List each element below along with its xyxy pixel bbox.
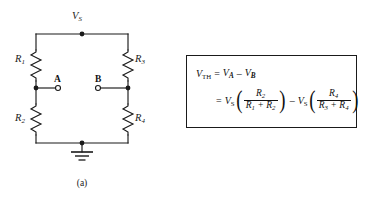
caption-panel-a: (a): [52, 178, 112, 188]
terminal-a-label: A: [54, 74, 61, 84]
fraction-r2-over-r1-plus-r2: R2 R1+R2: [244, 89, 278, 112]
node-dot-a: [34, 86, 39, 91]
node-dot-source: [80, 32, 85, 37]
resistor-r2-label: R2: [15, 113, 25, 125]
node-dot-b: [126, 86, 131, 91]
node-dot-ground: [80, 141, 85, 146]
terminal-a-open-circle: [56, 86, 61, 91]
equals-sign-1: =: [214, 68, 220, 79]
vb-symbol: VB: [245, 67, 256, 80]
equals-sign-2: =: [216, 95, 222, 106]
vth-symbol: VTH: [196, 68, 211, 80]
terminal-b-label: B: [95, 74, 101, 84]
left-paren-1: (: [236, 90, 242, 111]
resistor-r4-label: R4: [135, 113, 145, 125]
fraction-numerator-2: R4: [326, 89, 341, 100]
left-paren-2: (: [309, 90, 315, 111]
panel-circuit-schematic: VS R1 R2 R3 R4 A B (a): [0, 0, 180, 204]
vs-symbol-first: VS: [225, 95, 235, 107]
equation-line-1: VTH = VA – VB: [196, 67, 256, 80]
minus-sign-2: –: [290, 95, 295, 106]
fraction-r4-over-r3-plus-r4: R4 R3+R4: [317, 89, 351, 112]
fraction-denominator-2: R3+R4: [317, 100, 351, 112]
panel-equation: VTH = VA – VB = VS ( R2 R1+R2 ) – VS ( R: [180, 0, 371, 204]
right-paren-2: ): [352, 90, 358, 111]
equation-line-2: = VS ( R2 R1+R2 ) – VS ( R4 R3+R4 ): [213, 89, 360, 112]
resistor-r2-body: [31, 104, 41, 135]
figure-root: VS R1 R2 R3 R4 A B (a) VTH = VA – VB = V…: [0, 0, 371, 204]
circuit-diagram: [0, 0, 180, 175]
source-voltage-label: VS: [72, 11, 82, 23]
right-paren-1: ): [279, 90, 285, 111]
resistor-r1-label: R1: [15, 54, 25, 66]
resistor-r1-body: [31, 50, 41, 81]
fraction-numerator-1: R2: [253, 89, 268, 100]
equation-box: VTH = VA – VB = VS ( R2 R1+R2 ) – VS ( R: [186, 55, 357, 128]
resistor-r4-body: [123, 104, 133, 135]
resistor-r3-body: [123, 50, 133, 81]
resistor-r3-label: R3: [135, 54, 145, 66]
minus-sign-1: –: [237, 68, 242, 79]
fraction-denominator-1: R1+R2: [244, 100, 278, 112]
terminal-b-open-circle: [96, 86, 101, 91]
vs-symbol-second: VS: [298, 95, 308, 107]
va-symbol: VA: [223, 67, 234, 80]
